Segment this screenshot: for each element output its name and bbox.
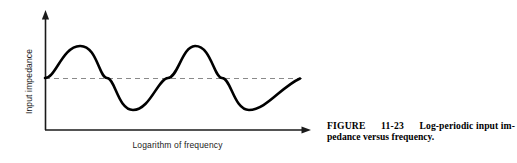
x-axis-label: Logarithm of frequency [45,140,310,150]
figure-caption-number: 11-23 [381,120,404,131]
x-axis-arrowhead-icon [302,126,312,133]
y-axis [42,10,49,130]
figure-caption-text-line-1: Log-periodic input im- [420,120,515,131]
plot-area: Input impedance Logarithm of frequency [0,0,325,163]
figure-caption: FIGURE 11-23 Log-periodic input im- peda… [327,120,515,142]
y-axis-arrowhead-icon [42,10,49,20]
figure-caption-line-2: pedance versus frequency. [327,131,515,142]
input-impedance-curve [45,46,300,110]
figure-caption-line-1: FIGURE 11-23 Log-periodic input im- [327,120,515,131]
figure-container: Input impedance Logarithm of frequency F… [0,0,517,163]
impedance-plot-svg [0,0,325,163]
x-axis [45,126,311,133]
figure-caption-label: FIGURE [327,120,366,131]
